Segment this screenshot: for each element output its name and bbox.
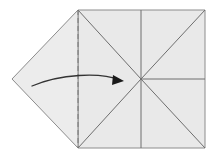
origami-diagram (0, 0, 215, 158)
left-triangular-flap (12, 10, 78, 148)
origami-figure-svg (0, 0, 215, 158)
